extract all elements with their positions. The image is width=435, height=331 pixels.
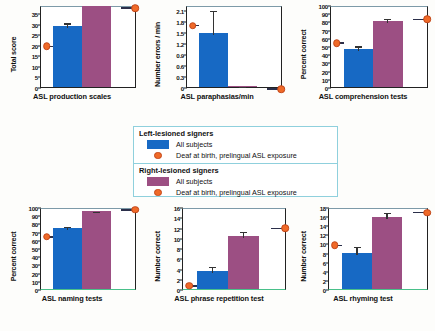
y-tick-label: 100 xyxy=(319,3,328,10)
y-tick-label: 0.9 xyxy=(176,52,184,59)
chart-panel-5: Number correct0246810121416ASL phrase re… xyxy=(152,208,286,304)
legend-row-left-all: All subjects xyxy=(139,139,333,150)
legend-title-right: Right-lesioned signers xyxy=(139,166,333,175)
deaf-marker-icon xyxy=(189,22,197,30)
figure-asl-lesion-results: Total score05101520253035ASL production … xyxy=(0,0,435,331)
axes-box xyxy=(182,208,286,290)
deaf-marker-icon xyxy=(423,209,431,217)
plot-area: Number correct024681012141618ASL rhyming… xyxy=(298,208,428,304)
error-bar-cap xyxy=(93,212,100,213)
legend-title-left: Left-lesioned signers xyxy=(139,129,333,138)
y-tick-label: 100 xyxy=(29,205,38,212)
legend-row-right-all: All subjects xyxy=(139,176,333,187)
y-tick-label: 2.1 xyxy=(176,8,184,15)
x-axis-label: ASL production scales xyxy=(8,92,136,101)
error-bar xyxy=(356,247,357,256)
y-axis-label-text: Number errors / min xyxy=(153,22,162,87)
deaf-marker-icon xyxy=(423,16,431,24)
y-axis-ticks: 0102030405060708090100 xyxy=(309,6,330,88)
plot-area: Total score05101520253035ASL production … xyxy=(8,6,136,102)
bar-right-lesioned xyxy=(228,236,259,289)
deaf-marker-icon xyxy=(185,282,193,290)
y-axis-label: Number correct xyxy=(152,208,163,304)
bar-left-lesioned xyxy=(53,228,82,289)
x-axis-label: ASL phrase repetition test xyxy=(152,294,286,303)
error-bar-cap xyxy=(239,87,246,88)
axes-box xyxy=(328,208,428,290)
error-bar-cap xyxy=(355,46,362,47)
deaf-marker-icon xyxy=(154,152,161,159)
y-axis-ticks: 0246810121416 xyxy=(163,208,182,290)
y-tick-label: 0.6 xyxy=(176,63,184,70)
y-axis-label-text: Percent correct xyxy=(299,29,308,79)
y-axis-label: Number errors / min xyxy=(152,6,163,102)
bar-left-lesioned xyxy=(53,26,82,87)
error-bar xyxy=(213,11,214,35)
plot-area: Percent correct0102030405060708090100ASL… xyxy=(298,6,428,102)
chart-panel-3: Percent correct0102030405060708090100ASL… xyxy=(298,6,428,102)
bar-left-lesioned xyxy=(197,271,228,289)
deaf-marker-icon xyxy=(154,189,161,196)
y-axis-label-text: Percent correct xyxy=(9,231,18,281)
bar-left-lesioned xyxy=(199,33,228,87)
error-bar-cap xyxy=(64,227,71,228)
x-axis-label: ASL naming tests xyxy=(8,294,136,303)
deaf-marker-icon xyxy=(281,225,289,233)
error-bar-cap xyxy=(210,11,217,12)
error-bar-cap xyxy=(64,23,71,24)
axes-box xyxy=(40,6,136,88)
bar-right-lesioned xyxy=(373,21,402,87)
bar-right-lesioned xyxy=(372,217,402,289)
x-axis-label: ASL rhyming test xyxy=(298,294,428,303)
y-axis-label: Percent correct xyxy=(298,6,309,102)
axes-box xyxy=(330,6,428,88)
legend-label-right-deaf: Deaf at birth, prelingual ASL exposure xyxy=(176,188,297,197)
legend-dot-right-wrap xyxy=(147,189,169,196)
y-axis-label: Total score xyxy=(8,6,19,102)
y-axis-ticks: 00.30.60.91.21.51.82.1 xyxy=(163,6,186,88)
plot-area: Number errors / min00.30.60.91.21.51.82.… xyxy=(152,6,282,102)
axes-box xyxy=(186,6,282,88)
y-tick-label: 1.8 xyxy=(176,19,184,26)
deaf-marker-icon xyxy=(331,242,339,250)
y-axis-ticks: 024681012141618 xyxy=(309,208,328,290)
chart-panel-1: Total score05101520253035ASL production … xyxy=(8,6,136,102)
plot-area: Number correct0246810121416ASL phrase re… xyxy=(152,208,286,304)
y-tick-label: 0.3 xyxy=(176,74,184,81)
y-axis-ticks: 05101520253035 xyxy=(19,6,40,88)
bar-right-lesioned xyxy=(82,6,111,87)
deaf-marker-icon xyxy=(131,206,139,214)
legend-swatch-left xyxy=(147,140,169,149)
y-axis-label: Number correct xyxy=(298,208,309,304)
legend-label-right-all: All subjects xyxy=(176,177,212,186)
legend-label-left-all: All subjects xyxy=(176,140,212,149)
legend-dot-left-wrap xyxy=(147,152,169,159)
deaf-marker-icon xyxy=(333,39,341,47)
y-tick-label: 1.2 xyxy=(176,41,184,48)
x-axis-label: ASL paraphasias/min xyxy=(152,92,282,101)
deaf-marker-icon xyxy=(43,233,51,241)
error-bar-cap xyxy=(384,19,391,20)
legend-label-left-deaf: Deaf at birth, prelingual ASL exposure xyxy=(176,151,297,160)
legend-row-left-deaf: Deaf at birth, prelingual ASL exposure xyxy=(139,150,333,161)
error-bar-cap xyxy=(240,232,247,233)
error-bar-cap xyxy=(354,247,361,248)
y-axis-ticks: 0102030405060708090100 xyxy=(19,208,40,290)
deaf-marker-icon xyxy=(131,4,139,12)
plot-area: Percent correct0102030405060708090100ASL… xyxy=(8,208,136,304)
legend-swatch-right xyxy=(147,177,169,186)
bar-right-lesioned xyxy=(82,211,111,289)
bar-left-lesioned xyxy=(342,253,372,289)
figure-legend: Left-lesioned signers All subjects Deaf … xyxy=(133,126,338,197)
chart-panel-4: Percent correct0102030405060708090100ASL… xyxy=(8,208,136,304)
chart-panel-2: Number errors / min00.30.60.91.21.51.82.… xyxy=(152,6,282,102)
legend-row-right-deaf: Deaf at birth, prelingual ASL exposure xyxy=(139,187,333,198)
axes-box xyxy=(40,208,136,290)
legend-section-right-lesioned: Right-lesioned signers All subjects Deaf… xyxy=(134,164,337,200)
x-axis-label: ASL comprehension tests xyxy=(298,92,428,101)
bar-left-lesioned xyxy=(344,49,373,87)
deaf-marker-icon xyxy=(43,43,51,51)
legend-section-left-lesioned: Left-lesioned signers All subjects Deaf … xyxy=(134,127,337,164)
y-axis-label-text: Total score xyxy=(9,36,18,72)
y-axis-label: Percent correct xyxy=(8,208,19,304)
